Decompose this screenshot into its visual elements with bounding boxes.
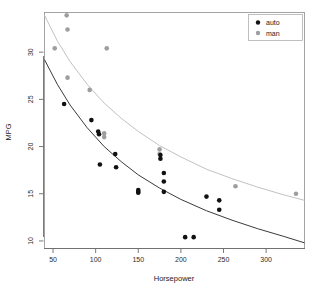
- data-point: [162, 171, 167, 176]
- y-tick-label: 25: [27, 95, 34, 103]
- data-point: [52, 46, 57, 51]
- data-point: [104, 46, 109, 51]
- legend-marker-auto: [256, 20, 260, 24]
- data-point: [162, 190, 167, 195]
- data-point: [65, 75, 70, 80]
- x-axis-title: Horsepower: [154, 274, 195, 283]
- data-point: [217, 198, 222, 203]
- y-tick-label: 30: [27, 48, 34, 56]
- data-point: [217, 208, 222, 213]
- data-point: [162, 179, 167, 184]
- legend-label-auto: auto: [266, 19, 280, 26]
- data-point: [233, 184, 238, 189]
- data-point: [97, 132, 102, 137]
- data-point: [136, 191, 141, 196]
- x-tick-label: 250: [218, 256, 230, 263]
- data-point: [102, 135, 107, 140]
- data-point: [87, 88, 92, 93]
- y-axis-title: MPG: [4, 123, 13, 140]
- y-tick-label: 20: [27, 143, 34, 151]
- data-point: [89, 118, 94, 123]
- data-point: [114, 165, 119, 170]
- scatter-plot-figure: 50100150200250300 1015202530 Horsepower …: [0, 0, 313, 295]
- data-point: [191, 235, 196, 240]
- data-point: [65, 27, 70, 32]
- data-point: [62, 102, 67, 107]
- data-point: [294, 191, 299, 196]
- data-point: [158, 157, 163, 162]
- y-tick-label: 10: [27, 237, 34, 245]
- data-point: [183, 235, 188, 240]
- x-tick-label: 200: [175, 256, 187, 263]
- y-tick-label: 15: [27, 190, 34, 198]
- x-tick-label: 300: [260, 256, 272, 263]
- x-tick-label: 150: [132, 256, 144, 263]
- data-point: [113, 152, 118, 157]
- x-tick-label: 50: [49, 256, 57, 263]
- legend-marker-man: [256, 31, 260, 35]
- data-point: [98, 162, 103, 167]
- data-point: [64, 13, 69, 18]
- legend: auto man: [249, 15, 303, 41]
- legend-label-man: man: [266, 30, 280, 37]
- x-tick-label: 100: [90, 256, 102, 263]
- data-point: [157, 147, 162, 152]
- data-point: [204, 194, 209, 199]
